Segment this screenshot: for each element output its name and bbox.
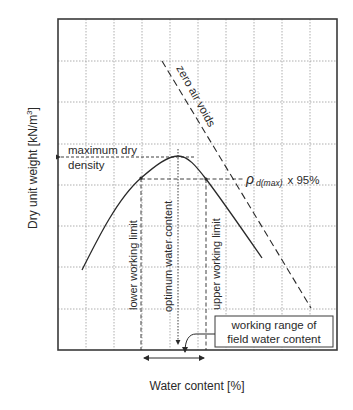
- optimum-water-content-label: optimum water content: [162, 201, 174, 312]
- lower-working-limit-label: lower working limit: [127, 220, 139, 310]
- upper-intersection-point: [204, 177, 207, 180]
- x-axis-label: Water content [%]: [150, 379, 245, 393]
- zero-air-voids-label: zero air voids: [174, 63, 218, 129]
- compaction-chart: zero air voids maximum dry density ρd(ma…: [0, 0, 353, 410]
- callout-text-line2: field water content: [227, 333, 321, 345]
- y-axis-label-main: Dry unit weight [kN/m: [26, 115, 40, 229]
- max-dry-density-label-line1: maximum dry: [68, 144, 137, 156]
- upper-working-limit-label: upper working limit: [210, 218, 222, 310]
- rho-95-label: ρd(max)x 95%: [245, 171, 319, 188]
- lower-intersection-point: [139, 176, 142, 179]
- max-dry-density-label-line2: density: [68, 159, 105, 171]
- y-axis-label-end: ]: [26, 107, 40, 110]
- callout-text-line1: working range of: [230, 319, 317, 331]
- y-axis-label: Dry unit weight [kN/m3]: [25, 107, 40, 229]
